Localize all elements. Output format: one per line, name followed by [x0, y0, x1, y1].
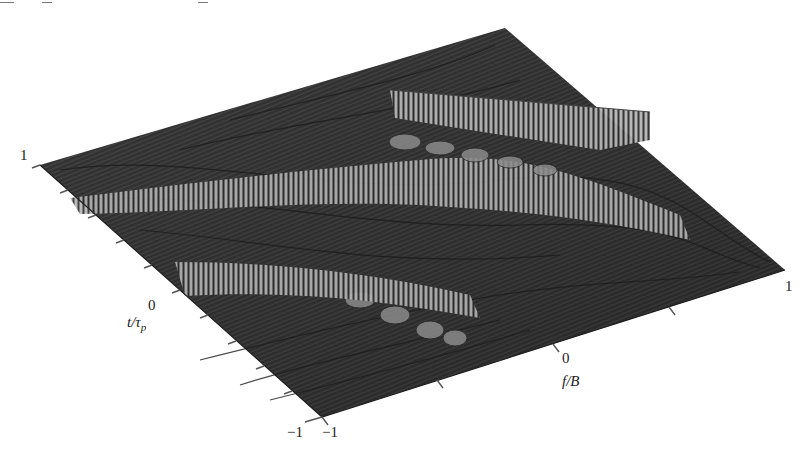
- y-tick-1: 1: [20, 148, 28, 163]
- x-axis-label: f/B: [562, 374, 580, 389]
- x-tick-neg1: −1: [322, 425, 338, 440]
- x-tick-0: 0: [562, 351, 570, 366]
- y-tick-neg1: −1: [287, 425, 303, 440]
- y-tick-0: 0: [148, 298, 156, 313]
- x-tick-1: 1: [785, 279, 793, 294]
- surface-plot: [0, 0, 811, 456]
- y-axis-label: t/τp: [127, 315, 146, 333]
